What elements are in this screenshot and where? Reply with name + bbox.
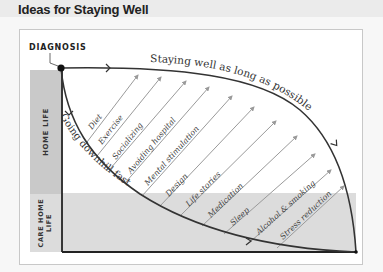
home-life-label: HOME LIFE: [42, 108, 50, 156]
diagnosis-label: DIAGNOSIS: [29, 43, 87, 52]
care-home-label-line2: LIFE: [45, 214, 53, 232]
arrow-label-mental-stimulation: Mental stimulation: [142, 124, 201, 188]
arrow-label-diet: Diet: [86, 112, 105, 132]
care-home-zone: [62, 193, 356, 252]
diagnosis-dot: [57, 64, 64, 71]
diagnosis-leader-line: [50, 53, 58, 66]
upper-direction-chevron-2-icon: [331, 140, 340, 148]
staying-well-diagram: HOME LIFE CARE HOME LIFE Diet Exercise S…: [0, 0, 383, 272]
arrow-label-avoiding-hospital: Avoiding hospital: [125, 115, 178, 176]
care-home-label-line1: CARE HOME: [37, 199, 45, 248]
end-dot: [354, 250, 358, 254]
